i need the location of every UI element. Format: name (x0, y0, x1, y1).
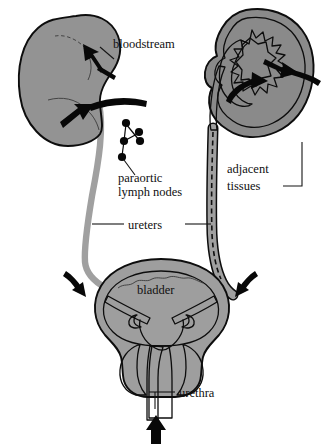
label-paraortic-line1: paraortic (118, 171, 163, 185)
label-paraortic-line2: lymph nodes (118, 185, 182, 199)
label-adjacent-line1: adjacent (227, 162, 269, 176)
urinary-tract-diagram: bloodstream paraortic lymph nodes adjace… (0, 0, 323, 445)
label-urethra: urethra (179, 386, 215, 400)
lymph-node-dot (122, 119, 130, 127)
lymph-node-dot (120, 137, 128, 145)
label-bladder: bladder (137, 283, 175, 297)
lymph-node-dot (136, 137, 144, 145)
label-adjacent-line2: tissues (227, 179, 260, 193)
lymph-node-dot (118, 153, 126, 161)
label-bloodstream: bloodstream (113, 37, 175, 51)
diagram-canvas: bloodstream paraortic lymph nodes adjace… (0, 0, 323, 445)
label-ureters: ureters (128, 218, 162, 232)
lymph-node-dot (135, 128, 143, 136)
